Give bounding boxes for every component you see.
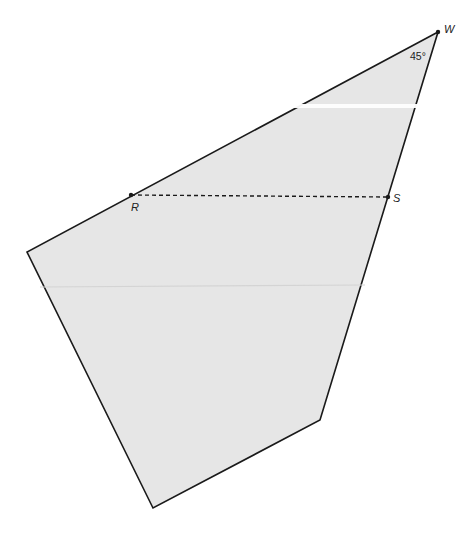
- point-w: [436, 30, 440, 34]
- point-s: [386, 195, 390, 199]
- angle-label: 45°: [410, 50, 426, 62]
- quadrilateral-shape: [27, 32, 438, 508]
- label-r: R: [131, 201, 139, 213]
- label-w: W: [444, 23, 456, 35]
- label-s: S: [393, 192, 401, 204]
- point-r: [129, 193, 133, 197]
- geometry-diagram: W R S 45°: [0, 0, 474, 536]
